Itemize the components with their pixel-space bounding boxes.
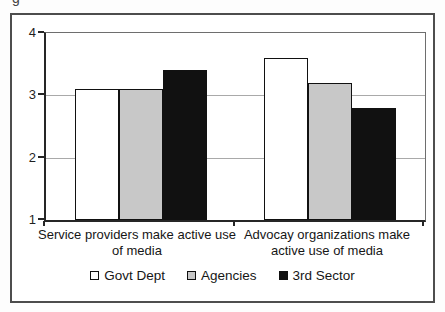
bar-agencies-group1: [119, 89, 163, 220]
legend-label: 3rd Sector: [293, 268, 355, 283]
plot-area: [44, 32, 426, 222]
y-tick-mark-3: [38, 93, 44, 95]
cropped-caption-fragment: g: [8, 0, 268, 6]
y-tick-mark-1: [38, 218, 44, 220]
caption-fragment-text: g: [12, 0, 20, 6]
category-label-advocacy-organizations: Advocay organizations make active use of…: [227, 227, 427, 259]
bar-govt-dept-group1: [75, 89, 119, 220]
legend-swatch-icon: [90, 271, 99, 280]
bar-agencies-group2: [308, 83, 352, 220]
bar-3rd-sector-group1: [163, 70, 207, 220]
y-tick-label-2: 2: [16, 151, 36, 164]
y-tick-label-3: 3: [16, 88, 36, 101]
y-tick-label-1: 1: [16, 213, 36, 226]
legend-label: Agencies: [201, 268, 257, 283]
y-tick-mark-4: [38, 31, 44, 33]
y-tick-label-4: 4: [16, 26, 36, 39]
chart-frame: 1234 Service providers make active use o…: [10, 13, 435, 303]
x-tick-mark-0: [43, 221, 45, 226]
x-tick-mark-2: [422, 221, 424, 226]
legend-item-govt-dept: Govt Dept: [90, 268, 165, 283]
legend-swatch-icon: [279, 271, 288, 280]
legend-label: Govt Dept: [104, 268, 165, 283]
legend-item-3rd-sector: 3rd Sector: [279, 268, 355, 283]
y-tick-mark-2: [38, 156, 44, 158]
bar-3rd-sector-group2: [352, 108, 396, 220]
bar-govt-dept-group2: [264, 58, 308, 220]
legend-swatch-icon: [187, 271, 196, 280]
scanned-chart-page: g 1234 Service providers make active use…: [0, 0, 445, 312]
x-tick-mark-1: [233, 221, 235, 226]
category-label-service-providers: Service providers make active use of med…: [37, 227, 237, 259]
legend-item-agencies: Agencies: [187, 268, 257, 283]
legend: Govt DeptAgencies3rd Sector: [12, 268, 433, 283]
